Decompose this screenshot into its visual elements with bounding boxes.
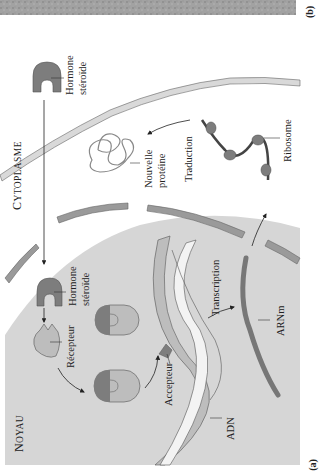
label-new-protein-2: protéine <box>156 153 167 188</box>
panel-label-a: (a) <box>307 459 319 471</box>
hormone-receptor-complex-upper <box>95 305 139 335</box>
label-dna: ADN <box>225 417 236 440</box>
label-nucleus: NOYAU <box>12 415 26 452</box>
translation-arrow <box>148 120 190 134</box>
polysome <box>202 120 271 180</box>
micrograph-panel-b <box>0 0 296 15</box>
panel-label-b: (b) <box>304 6 316 18</box>
hormone-receptor-complex-lower <box>94 370 140 402</box>
label-mrna: ARNm <box>275 306 286 336</box>
label-transcription: Transcription <box>210 259 221 316</box>
label-hormone-inside: Hormone <box>67 266 78 306</box>
label-cytoplasm: CYTOPLASME <box>10 141 24 210</box>
label-translation: Traduction <box>183 136 194 182</box>
label-ribosome: Ribosome <box>282 119 293 162</box>
label-steroid-inside: stéroïde <box>80 272 91 306</box>
steroid-hormone-outside <box>33 62 64 92</box>
label-steroid-outside: stéroïde <box>77 61 88 95</box>
new-protein <box>89 134 133 172</box>
label-new-protein-1: Nouvelle <box>143 149 154 188</box>
label-hormone-outside: Hormone <box>64 55 75 95</box>
steroid-hormone-diagram: (b) Hormone stéroïde CYTOPLASME Hormone … <box>0 0 321 472</box>
label-receptor: Récepteur <box>65 325 76 368</box>
label-acceptor: Accepteur <box>163 362 174 406</box>
